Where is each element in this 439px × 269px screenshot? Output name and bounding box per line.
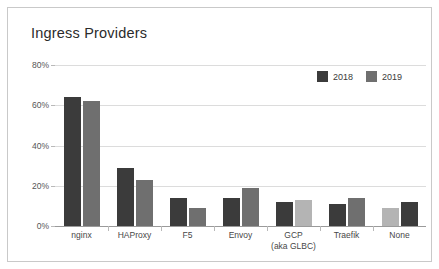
bar-group (161, 65, 214, 226)
x-axis-label-line: Envoy (229, 230, 253, 240)
bar-2018[interactable] (117, 168, 134, 226)
bar-2018[interactable] (64, 97, 81, 226)
bar-2018[interactable] (382, 208, 399, 226)
bar-group (55, 65, 108, 226)
x-axis-label: GCP(aka GLBC) (267, 230, 320, 252)
x-axis-label: HAProxy (108, 230, 161, 252)
bar-2019[interactable] (242, 188, 259, 226)
x-axis-label: Traefik (320, 230, 373, 252)
bar-2019[interactable] (83, 101, 100, 226)
x-axis-label-line: Traefik (334, 230, 360, 240)
x-axis-label-line: nginx (71, 230, 91, 240)
bar-2019[interactable] (401, 202, 418, 226)
y-tick-label: 80% (32, 60, 49, 70)
chart-card: Ingress Providers 2018 2019 0%20%40%60%8… (7, 7, 432, 262)
bar-2018[interactable] (276, 202, 293, 226)
y-tick-label: 20% (32, 181, 49, 191)
bar-2019[interactable] (189, 208, 206, 226)
bar-group (267, 65, 320, 226)
x-axis-labels: nginxHAProxyF5EnvoyGCP(aka GLBC)TraefikN… (55, 230, 426, 252)
x-axis-label: F5 (161, 230, 214, 252)
x-axis-label-line: (aka GLBC) (267, 241, 320, 252)
y-tick-label: 60% (32, 100, 49, 110)
y-tick-label: 40% (32, 141, 49, 151)
x-axis-label-line: GCP (284, 230, 302, 240)
x-axis-label-line: HAProxy (118, 230, 152, 240)
bar-group (108, 65, 161, 226)
bar-groups (55, 65, 426, 226)
x-axis-label: None (373, 230, 426, 252)
bar-group (373, 65, 426, 226)
bar-2019[interactable] (295, 200, 312, 226)
x-axis-label: nginx (55, 230, 108, 252)
page-title: Ingress Providers (31, 25, 147, 41)
bar-2019[interactable] (348, 198, 365, 226)
bar-group (320, 65, 373, 226)
gridline-0: 0% (55, 226, 426, 227)
bar-group (214, 65, 267, 226)
x-axis-label: Envoy (214, 230, 267, 252)
bar-2018[interactable] (170, 198, 187, 226)
y-tick-mark (51, 226, 55, 227)
x-axis-label-line: F5 (183, 230, 193, 240)
plot-area: 0%20%40%60%80% (55, 65, 426, 226)
bar-2018[interactable] (329, 204, 346, 226)
bar-2018[interactable] (223, 198, 240, 226)
x-axis-label-line: None (389, 230, 409, 240)
y-tick-label: 0% (37, 221, 49, 231)
bar-2019[interactable] (136, 180, 153, 226)
